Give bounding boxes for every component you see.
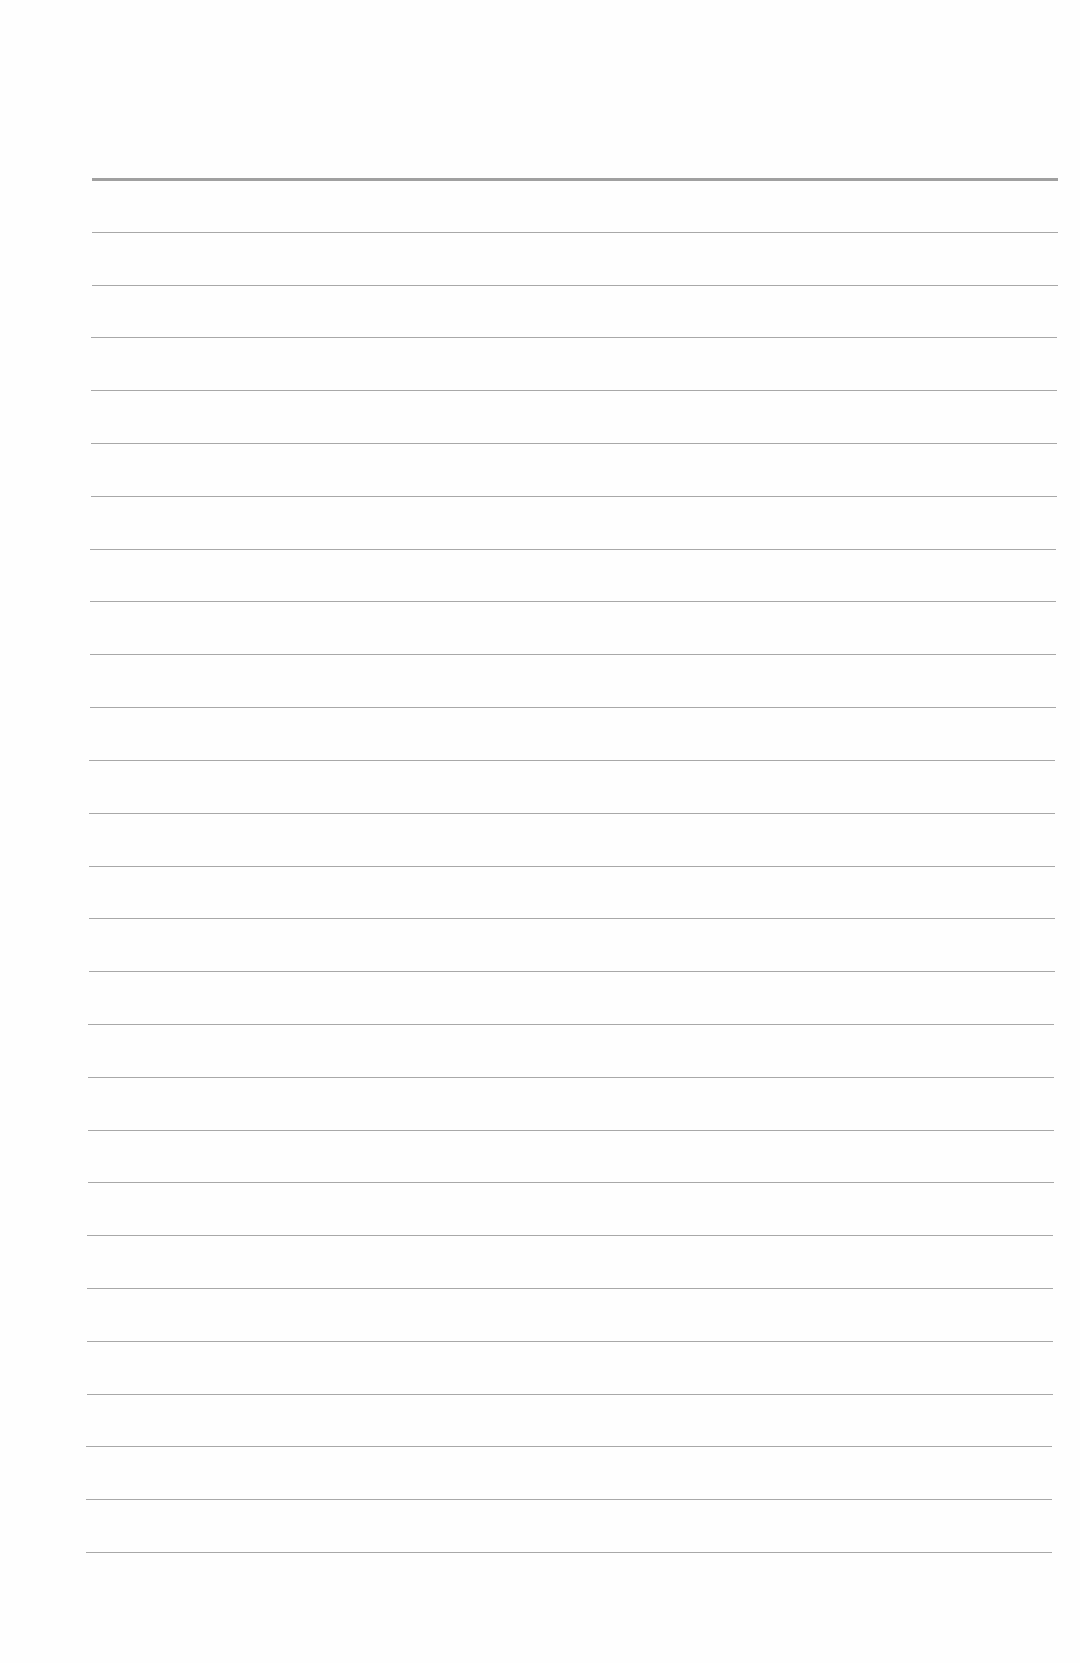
ruled-line bbox=[88, 1024, 1054, 1025]
ruled-line bbox=[89, 813, 1055, 814]
ruled-line bbox=[89, 760, 1055, 761]
ruled-line bbox=[87, 1394, 1053, 1395]
ruled-line bbox=[92, 232, 1058, 233]
ruled-line bbox=[92, 178, 1058, 181]
ruled-line bbox=[87, 1341, 1053, 1342]
ruled-line bbox=[88, 1182, 1054, 1183]
ruled-line bbox=[86, 1552, 1052, 1553]
ruled-line bbox=[88, 1130, 1054, 1131]
ruled-line bbox=[89, 971, 1055, 972]
ruled-line bbox=[92, 285, 1058, 286]
ruled-line bbox=[89, 918, 1055, 919]
ruled-line bbox=[88, 1077, 1054, 1078]
ruled-line bbox=[90, 707, 1056, 708]
lined-paper-page bbox=[0, 0, 1080, 1663]
ruled-line bbox=[90, 549, 1056, 550]
ruled-line bbox=[91, 337, 1057, 338]
ruled-line bbox=[91, 496, 1057, 497]
ruled-line bbox=[90, 654, 1056, 655]
ruled-line bbox=[89, 866, 1055, 867]
ruled-line bbox=[86, 1446, 1052, 1447]
ruled-line bbox=[91, 390, 1057, 391]
ruled-line bbox=[86, 1499, 1052, 1500]
ruled-line bbox=[87, 1288, 1053, 1289]
ruled-line bbox=[87, 1235, 1053, 1236]
ruled-line bbox=[91, 443, 1057, 444]
ruled-line bbox=[90, 601, 1056, 602]
